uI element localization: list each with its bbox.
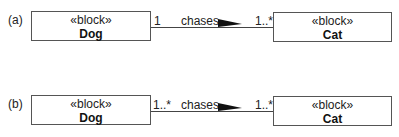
filled-triangle-right-icon (218, 102, 242, 112)
stereotype: «block» (32, 98, 150, 111)
stereotype: «block» (274, 99, 391, 112)
block-cat-b[interactable]: «block» Cat (273, 96, 392, 126)
block-name: Cat (274, 28, 391, 42)
block-name: Dog (32, 111, 150, 125)
target-multiplicity-a: 1..* (255, 15, 273, 27)
block-dog-b[interactable]: «block» Dog (31, 95, 151, 125)
filled-triangle-right-icon (218, 18, 242, 28)
block-cat-a[interactable]: «block» Cat (273, 12, 392, 42)
block-dog-a[interactable]: «block» Dog (31, 11, 151, 41)
association-name-a: chases (181, 15, 219, 27)
diagram-label-a: (a) (8, 13, 23, 27)
diagram-label-b: (b) (8, 97, 23, 111)
block-name: Cat (274, 112, 391, 126)
association-name-b: chases (181, 99, 219, 111)
source-multiplicity-a: 1 (154, 15, 161, 27)
stereotype: «block» (32, 14, 150, 27)
block-name: Dog (32, 27, 150, 41)
target-multiplicity-b: 1..* (255, 99, 273, 111)
source-multiplicity-b: 1..* (153, 99, 171, 111)
stereotype: «block» (274, 15, 391, 28)
